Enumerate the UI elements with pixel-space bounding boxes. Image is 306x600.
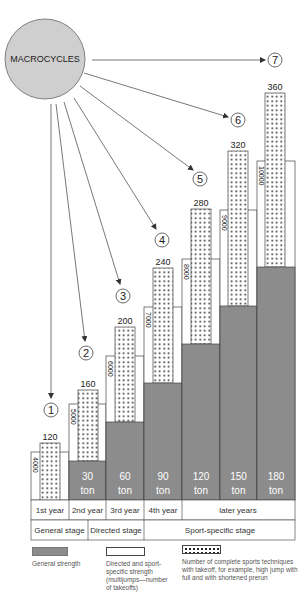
marker-4: 4 (155, 233, 169, 247)
ton-unit: ton (118, 485, 132, 496)
svg-text:6: 6 (235, 114, 241, 126)
marker-5: 5 (193, 172, 207, 186)
arrow-2 (56, 104, 85, 341)
techniques-value: 160 (80, 379, 95, 389)
year-label: 4th year (149, 506, 178, 515)
techniques-bar (40, 443, 60, 500)
bar-year-3: 200 6000 60 ton (106, 316, 144, 500)
arrow-4 (74, 98, 156, 229)
techniques-bar (265, 93, 285, 267)
techniques-bar (153, 268, 173, 383)
directed-strength-swatch (106, 547, 145, 556)
stage-label: Directed stage (90, 526, 142, 535)
ton-value: 90 (157, 471, 169, 482)
techniques-bar (115, 327, 135, 422)
year-label: 2nd year (72, 506, 103, 515)
bar-year-6: 320 9000 150 ton (220, 140, 257, 500)
ton-unit: ton (194, 485, 208, 496)
stage-label: General stage (34, 526, 85, 535)
legend-general: General strength (32, 547, 92, 568)
techniques-value: 240 (155, 257, 170, 267)
ton-value: 150 (230, 471, 247, 482)
jumps-value: 7000 (145, 312, 152, 328)
year-label: 3rd year (110, 506, 140, 515)
arrow-3 (64, 102, 120, 284)
marker-6: 6 (231, 113, 245, 127)
techniques-swatch (182, 545, 221, 554)
macrocycles-label: MACROCYCLES (10, 54, 80, 64)
jumps-value: 9000 (221, 215, 228, 231)
legend-techniques: Number of complete sports techniques wit… (182, 545, 304, 582)
marker-2: 2 (79, 346, 93, 360)
legend-directed-label: Directed and sport-specific strength (mu… (106, 560, 172, 592)
ton-value: 30 (82, 471, 94, 482)
ton-value: 120 (193, 471, 210, 482)
legend-directed: Directed and sport-specific strength (mu… (106, 547, 172, 592)
general-strength-swatch (32, 547, 68, 556)
jumps-value: 6000 (107, 361, 114, 377)
bar-year-5: 280 8000 120 ton (182, 198, 220, 500)
ton-unit: ton (232, 485, 246, 496)
techniques-bar (228, 151, 248, 306)
ton-unit: ton (81, 485, 95, 496)
bar-year-1: 120 4000 (31, 432, 69, 500)
bar-year-4: 240 7000 90 ton (144, 257, 182, 500)
marker-3: 3 (116, 289, 130, 303)
techniques-value: 200 (117, 316, 132, 326)
macrocycles-diagram: MACROCYCLES 1 2 3 4 5 6 7 120 4000 160 5… (0, 0, 306, 600)
bars: 120 4000 160 5000 30 ton 200 6000 60 ton (31, 82, 295, 500)
svg-text:1: 1 (48, 404, 54, 416)
techniques-bar (191, 209, 211, 344)
ton-unit: ton (269, 485, 283, 496)
marker-1: 1 (44, 403, 58, 417)
techniques-value: 280 (193, 198, 208, 208)
techniques-bar (78, 390, 98, 461)
stage-row: General stage Directed stage Sport-speci… (31, 520, 295, 540)
jumps-value: 8000 (183, 264, 190, 280)
techniques-value: 360 (267, 82, 282, 92)
general-strength-bar (257, 267, 295, 500)
year-label: 1st year (36, 506, 65, 515)
arrow-5 (80, 86, 193, 170)
svg-text:5: 5 (197, 173, 203, 185)
bar-year-7: 360 10000 180 ton (257, 82, 295, 500)
general-strength-bar (144, 383, 182, 500)
techniques-value: 320 (230, 140, 245, 150)
bar-year-2: 160 5000 30 ton (69, 379, 106, 500)
year-row: 1st year 2nd year 3rd year 4th year late… (31, 500, 295, 520)
svg-text:2: 2 (83, 347, 89, 359)
stage-label: Sport-specific stage (185, 526, 256, 535)
year-label: later years (219, 506, 256, 515)
arrow-6 (84, 73, 228, 117)
marker-7: 7 (268, 53, 282, 67)
legend-techniques-label: Number of complete sports techniques wit… (182, 558, 304, 582)
ton-unit: ton (156, 485, 170, 496)
ton-value: 60 (119, 471, 131, 482)
jumps-value: 10000 (258, 166, 265, 186)
svg-text:3: 3 (120, 290, 126, 302)
svg-text:4: 4 (159, 234, 165, 246)
legend-general-label: General strength (32, 560, 92, 568)
ton-value: 180 (268, 471, 285, 482)
jumps-value: 5000 (70, 409, 77, 425)
jumps-value: 4000 (32, 457, 39, 473)
techniques-value: 120 (42, 432, 57, 442)
svg-text:7: 7 (272, 54, 278, 66)
